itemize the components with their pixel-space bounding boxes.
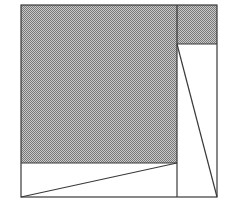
region-top-right-shaded-rectangle: [177, 5, 217, 44]
geometric-diagram: [0, 0, 225, 210]
region-left-shaded-rectangle: [21, 5, 177, 163]
figure-container: [0, 0, 225, 210]
